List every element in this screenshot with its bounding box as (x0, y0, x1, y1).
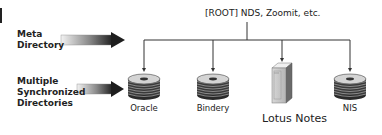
meta-arrow (61, 32, 125, 48)
database-disk-stack-icon (334, 74, 366, 100)
server-tower-icon (272, 63, 292, 103)
meta-directory-label: Meta Directory (17, 29, 64, 51)
multiple-label-line1: Multiple (17, 76, 85, 87)
multiple-label-line2: Synchronized (17, 87, 85, 98)
database-disk-stack-icon (128, 74, 160, 100)
root-label: [ROOT] NDS, Zoomit, etc. (205, 8, 295, 18)
meta-label-line1: Meta (17, 29, 64, 40)
tree-connectors (144, 22, 350, 70)
node-label-bindery: Bindery (188, 103, 238, 113)
connector-arrowheads (142, 58, 352, 72)
node-label-nis: NIS (325, 103, 375, 113)
multiple-label-line3: Directories (17, 98, 85, 109)
database-disk-stack-icon (197, 74, 229, 100)
node-label-oracle: Oracle (119, 103, 169, 113)
meta-label-line2: Directory (17, 40, 64, 51)
multiple-sync-label: Multiple Synchronized Directories (17, 76, 85, 109)
node-label-lotus-notes: Lotus Notes (262, 112, 327, 125)
